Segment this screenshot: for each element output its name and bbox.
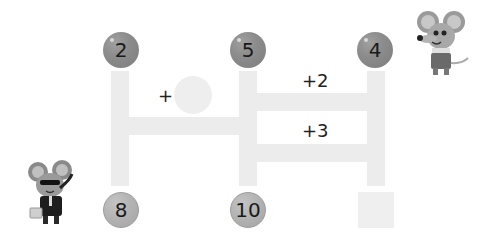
right-vertical-bar	[367, 71, 385, 186]
shine	[110, 38, 114, 42]
left-rung	[129, 117, 239, 135]
top-number-2: 5	[230, 32, 266, 68]
mouse-overalls-icon	[410, 8, 476, 78]
bottom-answer-square[interactable]	[358, 192, 394, 228]
top-number-3: 4	[357, 32, 393, 68]
right-top-operation: +2	[302, 72, 329, 90]
middle-vertical-bar	[239, 71, 257, 186]
top-number-1: 2	[103, 32, 139, 68]
number-text: 8	[115, 198, 128, 222]
left-answer-circle[interactable]	[174, 76, 212, 114]
bottom-number-1: 8	[103, 192, 139, 228]
number-text: 2	[115, 38, 128, 62]
left-vertical-bar	[111, 71, 129, 186]
mouse-suit-icon	[26, 160, 82, 228]
right-top-rung	[257, 93, 367, 111]
number-text: 10	[235, 198, 260, 222]
shine	[364, 38, 368, 42]
right-bottom-rung	[257, 144, 367, 162]
left-operation: +	[158, 87, 173, 105]
right-bottom-operation: +3	[302, 122, 329, 140]
shine	[237, 38, 241, 42]
bottom-number-2: 10	[230, 192, 266, 228]
number-text: 4	[369, 38, 382, 62]
number-text: 5	[242, 38, 255, 62]
